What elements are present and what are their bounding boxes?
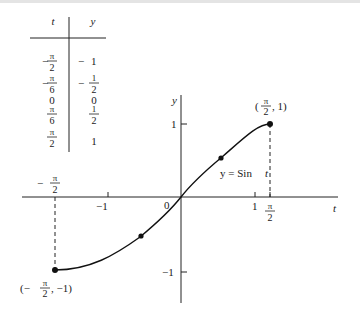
row4-t-num: π — [50, 104, 55, 114]
x-tick-neg-pi-half-den: 2 — [53, 184, 58, 195]
point-bottom-num: π — [43, 278, 48, 288]
row1-t-num: π — [50, 51, 55, 61]
row2-y-sign: − — [78, 77, 84, 89]
row5-t-den: 2 — [50, 138, 55, 149]
point-top-num: π — [264, 96, 269, 106]
row5-t-num: π — [50, 127, 55, 137]
x-tick-1: 1 — [252, 200, 258, 212]
point-top-rest: , 1) — [272, 100, 287, 113]
y-tick-1: 1 — [171, 118, 177, 130]
point-top-open: ( — [255, 100, 259, 113]
y-tick-neg1: −1 — [162, 266, 174, 278]
row4-y-den: 2 — [92, 115, 97, 126]
point-top-den: 2 — [264, 106, 269, 117]
value-table: t y − π 2 − 1 − π 6 − 1 2 0 0 π 6 1 2 π … — [30, 15, 106, 152]
x-tick-pi-half-den: 2 — [268, 212, 273, 223]
row2-y-num: 1 — [92, 73, 97, 83]
t-axis-label: t — [333, 202, 337, 214]
x-tick-neg-pi-half-num: π — [53, 173, 58, 183]
y-axis-label: y — [171, 94, 177, 106]
curve-label: y = Sin — [220, 167, 252, 179]
row1-y-sign: − — [78, 55, 84, 67]
point-neg-pi-half — [52, 267, 58, 273]
row4-y-num: 1 — [92, 104, 97, 114]
point-bottom-rest: , −1) — [51, 282, 72, 295]
row5-y-val: 1 — [91, 135, 97, 147]
point-bottom-open: (− — [20, 282, 30, 295]
curve-label-var: t — [265, 167, 269, 179]
x-tick-0: 0 — [164, 199, 170, 211]
sine-graph-figure: t y − π 2 − 1 − π 6 − 1 2 0 0 π 6 1 2 π … — [0, 0, 360, 317]
point-bottom-den: 2 — [43, 288, 48, 299]
row4-t-den: 6 — [50, 115, 55, 126]
row2-t-num: π — [50, 73, 55, 83]
table-header-t: t — [51, 15, 55, 27]
x-tick-neg1: −1 — [96, 200, 108, 212]
point-pi-sixth — [218, 155, 223, 160]
x-tick-neg-pi-half-sign: − — [37, 177, 43, 189]
row1-y-val: 1 — [91, 55, 97, 67]
x-tick-pi-half-num: π — [268, 201, 273, 211]
point-neg-pi-sixth — [138, 233, 143, 238]
point-pi-half — [267, 121, 273, 127]
row1-t-den: 2 — [50, 62, 55, 73]
table-header-y: y — [90, 15, 96, 27]
